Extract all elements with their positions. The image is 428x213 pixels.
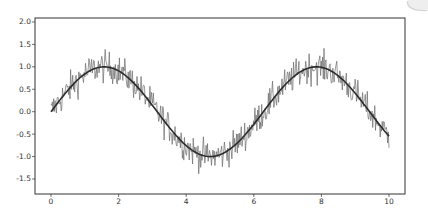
x-tick-label: 10 bbox=[384, 197, 394, 206]
x-axis-ticks: 0246810 bbox=[49, 194, 394, 206]
y-tick-label: 1.0 bbox=[19, 62, 31, 71]
sine-noise-chart: 2.01.51.00.50.0-0.5-1.0-1.5 0246810 bbox=[0, 0, 428, 213]
y-tick-label: -1.5 bbox=[16, 174, 31, 183]
y-tick-label: 2.0 bbox=[19, 17, 31, 26]
y-tick-label: 1.5 bbox=[19, 40, 31, 49]
x-tick-label: 6 bbox=[251, 197, 256, 206]
plot-area bbox=[35, 18, 405, 194]
x-tick-label: 4 bbox=[184, 197, 189, 206]
x-tick-label: 8 bbox=[319, 197, 324, 206]
y-tick-label: -0.5 bbox=[16, 130, 31, 139]
y-tick-label: -1.0 bbox=[16, 152, 31, 161]
x-tick-label: 0 bbox=[49, 197, 54, 206]
y-axis-ticks: 2.01.51.00.50.0-0.5-1.0-1.5 bbox=[16, 17, 35, 183]
y-tick-label: 0.0 bbox=[19, 107, 31, 116]
x-tick-label: 2 bbox=[116, 197, 121, 206]
y-tick-label: 0.5 bbox=[19, 85, 31, 94]
